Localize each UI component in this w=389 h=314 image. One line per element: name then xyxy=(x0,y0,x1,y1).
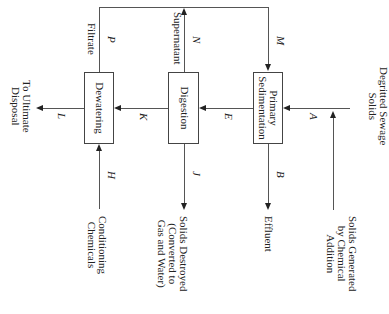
conditioning-chemicals-label: Conditioning Chemicals xyxy=(86,216,108,274)
disposal-line2: Disposal xyxy=(10,80,21,133)
stream-p-line xyxy=(99,7,100,72)
label-j: J xyxy=(191,171,202,176)
stream-j-arrow-icon xyxy=(181,203,187,210)
stream-b-line xyxy=(268,144,269,203)
stream-e-line xyxy=(206,108,253,109)
label-e: E xyxy=(223,113,234,120)
stream-b-arrow-icon xyxy=(265,203,271,210)
stream-a-line xyxy=(290,108,350,109)
primary-label-line2: Sedimentation xyxy=(257,76,268,140)
label-p: P xyxy=(106,36,117,43)
solids-destroyed-label: Solids Destroyed (Converted to Gas and W… xyxy=(156,216,189,291)
chemical-line1: Solids Generated xyxy=(347,216,358,291)
label-h: H xyxy=(106,171,117,179)
chemical-solids-line xyxy=(333,118,334,210)
stream-e-arrow-icon xyxy=(199,105,206,111)
stream-m-line xyxy=(268,7,269,65)
filtrate-label: Filtrate xyxy=(86,23,97,55)
label-l: L xyxy=(56,113,67,119)
stream-h-line xyxy=(99,151,100,209)
degritted-sewage-label: Degritted Sewage Solids xyxy=(367,67,389,146)
destroyed-line3: Gas and Water) xyxy=(156,216,167,291)
stream-h-arrow-icon xyxy=(96,144,102,151)
digestion-label: Digestion xyxy=(178,87,189,130)
conditioning-line1: Conditioning xyxy=(97,216,108,274)
stream-k-arrow-icon xyxy=(114,105,121,111)
ultimate-disposal-label: To Ultimate Disposal xyxy=(10,80,32,133)
stream-l-line xyxy=(43,108,84,109)
stream-n-line xyxy=(184,14,185,72)
label-k: K xyxy=(138,113,149,120)
dewatering-box: Dewatering xyxy=(84,72,114,144)
stream-k-line xyxy=(121,108,168,109)
dewatering-label: Dewatering xyxy=(94,82,105,133)
effluent-label: Effluent xyxy=(263,216,274,252)
primary-label-line1: Primary xyxy=(268,76,279,140)
chemical-solids-arrow-icon xyxy=(330,111,336,118)
chemical-line3: Addition xyxy=(325,216,336,291)
label-a: A xyxy=(308,113,319,120)
conditioning-line2: Chemicals xyxy=(86,216,97,274)
supernatant-label: Supernatant xyxy=(172,12,183,65)
chemical-line2: by Chemical xyxy=(336,216,347,291)
label-m: M xyxy=(275,36,286,45)
stream-j-line xyxy=(184,144,185,203)
destroyed-line2: (Converted to xyxy=(167,216,178,291)
degritted-line2: Solids xyxy=(367,67,378,146)
primary-sedimentation-box: Primary Sedimentation xyxy=(253,72,283,144)
label-b: B xyxy=(275,171,286,178)
digestion-box: Digestion xyxy=(168,72,199,144)
stream-a-arrow-icon xyxy=(283,105,290,111)
primary-sedimentation-label: Primary Sedimentation xyxy=(257,76,279,140)
destroyed-line1: Solids Destroyed xyxy=(178,216,189,291)
degritted-line1: Degritted Sewage xyxy=(378,67,389,146)
stream-m-arrow-icon xyxy=(265,64,271,71)
chemical-solids-label: Solids Generated by Chemical Addition xyxy=(325,216,358,291)
label-n: N xyxy=(191,36,202,43)
disposal-line1: To Ultimate xyxy=(21,80,32,133)
stream-l-arrow-icon xyxy=(36,105,43,111)
